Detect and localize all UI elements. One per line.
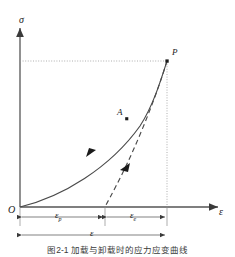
plastic-strain-subscript: p (59, 216, 62, 222)
elastic-strain-subscript: e (134, 216, 137, 222)
point-P-label: P (172, 48, 178, 57)
unloading-curve-path (105, 61, 167, 207)
origin-label: O (8, 205, 15, 215)
unloading-direction-arrow-icon (120, 163, 130, 172)
x-axis-label: ε (219, 207, 223, 217)
point-A-marker (125, 117, 128, 120)
loading-curve (20, 61, 167, 207)
point-P-marker (165, 59, 168, 62)
plastic-strain-label: εp (55, 211, 62, 222)
y-axis-label: σ (19, 15, 24, 25)
total-strain-label: ε (90, 229, 94, 238)
unloading-curve (105, 61, 167, 207)
elastic-strain-label: εe (130, 211, 136, 222)
point-markers (125, 59, 169, 120)
guide-group (20, 61, 167, 207)
loading-direction-arrow-icon (86, 148, 96, 157)
figure-caption: 图2-1 加载与卸载时的应力应变曲线 (0, 243, 235, 255)
stress-strain-diagram (0, 0, 235, 257)
point-A-label: A (117, 108, 123, 117)
total-strain-symbol: ε (90, 228, 94, 238)
loading-curve-path (20, 61, 167, 207)
stress-strain-figure: σ ε O A P εp εe ε 图2-1 加载与卸载时的应力应变曲线 (0, 0, 235, 257)
strain-split-dimension-row (20, 207, 167, 226)
